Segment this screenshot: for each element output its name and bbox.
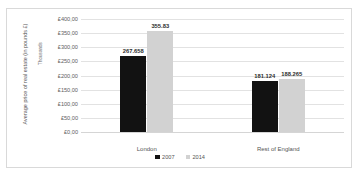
legend-label-2007: 2007 [162,154,174,160]
legend-item-2007[interactable]: 2007 [155,154,174,160]
y-axis-units-label: Thousands [38,29,43,79]
y-axis-title: Average price of real estate (in pounds … [22,4,28,144]
bar-2014-london[interactable] [147,31,173,132]
legend-label-2014: 2014 [193,154,205,160]
legend-item-2014[interactable]: 2014 [186,154,205,160]
bar-value-label: 181.124 [254,73,275,79]
gridline [81,33,344,34]
x-axis-category-label: Rest of England [257,146,300,152]
bar-value-label: 267.658 [123,48,144,54]
y-axis-tick-label: £400,00 [58,16,78,22]
chart-legend: 2007 2014 [7,154,353,160]
bar-value-label: 188.265 [281,71,302,77]
y-axis-tick-label: £300,00 [58,44,78,50]
y-axis-tick-label: £100,00 [58,101,78,107]
bar-value-label: 355.83 [151,23,169,29]
legend-swatch-icon-2014 [186,155,191,160]
legend-swatch-icon-2007 [155,155,160,160]
y-axis-tick-label: £50,00 [61,115,78,121]
y-axis-tick-label: £350,00 [58,30,78,36]
gridline [81,132,344,133]
gridline [81,47,344,48]
bar-2007-rest-of-england[interactable] [252,81,278,132]
plot-area: £400,00£350,00£300,00£250,00£200,00£150,… [81,19,344,132]
y-axis-tick-label: £150,00 [58,87,78,93]
chart-plot-frame: Average price of real estate (in pounds … [6,8,352,168]
bar-2007-london[interactable] [120,56,146,132]
y-axis-tick-label: £0,00 [64,129,78,135]
y-axis-tick-label: £250,00 [58,58,78,64]
bar-2014-rest-of-england[interactable] [279,79,305,132]
gridline [81,19,344,20]
x-axis-category-label: London [137,146,157,152]
bar-chart: Average price of real estate (in pounds … [0,0,363,179]
y-axis-tick-label: £200,00 [58,73,78,79]
